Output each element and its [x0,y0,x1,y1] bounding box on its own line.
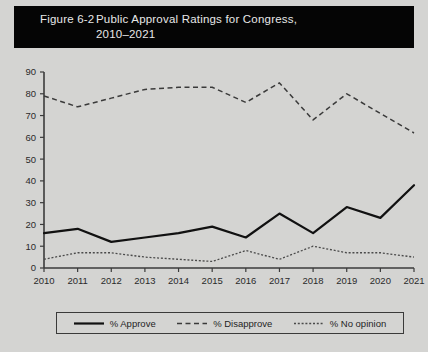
x-axis: 2010201120122013201420152016201720182019… [33,268,424,286]
figure-title-line1: Public Approval Ratings for Congress, [96,12,297,27]
figure-container: Figure 6-2 Public Approval Ratings for C… [0,0,428,352]
y-tick-label: 70 [25,110,36,121]
y-tick-label: 10 [25,241,36,252]
series-line-noopinion [44,246,414,261]
y-tick-label: 0 [31,262,36,273]
x-tick-label: 2016 [235,275,256,286]
x-tick-label: 2013 [134,275,155,286]
y-tick-label: 60 [25,132,36,143]
y-tick-label: 40 [25,175,36,186]
series-line-approve [44,185,414,242]
y-tick-label: 90 [25,66,36,77]
plot-area: 0102030405060708090 20102011201220132014… [0,48,428,352]
legend-item-disapprove: % Disapprove [177,318,272,329]
figure-title-banner: Figure 6-2 Public Approval Ratings for C… [14,6,414,48]
x-tick-label: 2012 [101,275,122,286]
x-tick-label: 2011 [67,275,87,286]
legend-label-disapprove: % Disapprove [213,318,272,329]
figure-title-line2: 2010–2021 [96,27,414,42]
y-tick-label: 50 [25,154,36,165]
legend-label-approve: % Approve [110,318,156,329]
legend-swatch-noopinion [294,319,324,328]
y-axis: 0102030405060708090 [25,66,44,273]
y-tick-label: 30 [25,197,36,208]
legend-swatch-approve [74,319,104,328]
x-tick-label: 2021 [403,275,424,286]
x-tick-label: 2010 [33,275,54,286]
y-tick-label: 80 [25,88,36,99]
x-tick-label: 2014 [168,275,189,286]
y-tick-label: 20 [25,219,36,230]
x-tick-label: 2017 [269,275,290,286]
series-line-disapprove [44,83,414,133]
chart-legend: % Approve % Disapprove % No opinion [56,312,404,334]
data-series-group [44,83,414,262]
legend-label-noopinion: % No opinion [330,318,387,329]
legend-swatch-disapprove [177,319,207,328]
figure-title-row: Figure 6-2 Public Approval Ratings for C… [40,12,414,27]
x-tick-label: 2015 [202,275,223,286]
x-tick-label: 2019 [336,275,357,286]
legend-item-approve: % Approve [74,318,156,329]
figure-number: Figure 6-2 [40,12,96,27]
x-tick-label: 2018 [303,275,324,286]
line-chart: 0102030405060708090 20102011201220132014… [0,48,428,352]
x-tick-label: 2020 [370,275,391,286]
legend-item-noopinion: % No opinion [294,318,387,329]
